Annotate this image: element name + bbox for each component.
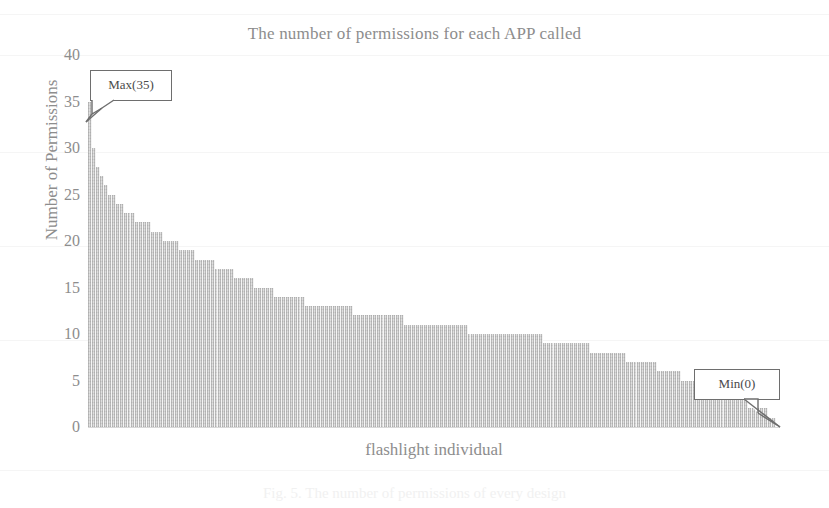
y-tick-0: 0 bbox=[40, 419, 80, 435]
y-tick-10: 10 bbox=[40, 326, 80, 342]
x-axis-line bbox=[88, 427, 780, 428]
annotation-min: Min(0) bbox=[694, 369, 780, 400]
y-tick-20: 20 bbox=[40, 233, 80, 249]
annotation-min-pointer bbox=[694, 369, 794, 449]
annotation-max-pointer bbox=[90, 70, 180, 140]
scan-artifact-line bbox=[0, 470, 829, 471]
scan-artifact-line bbox=[0, 14, 829, 15]
y-tick-5: 5 bbox=[40, 373, 80, 389]
y-tick-35: 35 bbox=[40, 94, 80, 110]
figure-page: The number of permissions for each APP c… bbox=[0, 0, 829, 508]
y-tick-30: 30 bbox=[40, 140, 80, 156]
y-tick-25: 25 bbox=[40, 187, 80, 203]
annotation-max: Max(35) bbox=[90, 70, 172, 101]
y-axis-tick-labels: 4035302520151050 bbox=[40, 0, 80, 508]
chart-title: The number of permissions for each APP c… bbox=[0, 24, 829, 44]
y-tick-15: 15 bbox=[40, 280, 80, 296]
plot-area bbox=[88, 55, 780, 427]
y-tick-40: 40 bbox=[40, 47, 80, 63]
figure-caption: Fig. 5. The number of permissions of eve… bbox=[0, 485, 829, 502]
bar-series bbox=[88, 55, 780, 427]
x-axis-label: flashlight individual bbox=[88, 440, 780, 460]
